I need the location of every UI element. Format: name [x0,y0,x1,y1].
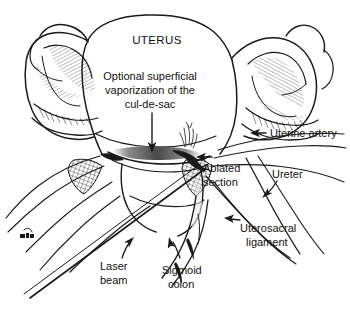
uterus-title-label: UTERUS [132,34,182,46]
uterosacral-line-1: Uterosacral [240,222,296,234]
sigmoid-colon-line-1: Sigmoid [162,264,202,276]
ablated-section-line-1: Ablated [203,162,240,174]
caption-line-2: vaporization of the [105,84,195,96]
uterine-artery-label: Uterine artery [270,127,337,139]
sigmoid-colon-line-2: colon [168,278,194,290]
caption-line-3: cul-de-sac [125,98,176,110]
uterosacral-line-2: ligament [246,236,288,248]
illustration-canvas: UTERUS Optional superficial vaporization… [0,0,350,311]
ablated-section-line-2: section [203,176,238,188]
laser-beam-line-2: beam [100,274,128,286]
caption-line-1: Optional superficial [103,70,197,82]
anatomical-illustration-figure: UTERUS Optional superficial vaporization… [0,0,350,311]
ureter-label: Ureter [272,168,303,180]
laser-beam-line-1: Laser [100,260,128,272]
